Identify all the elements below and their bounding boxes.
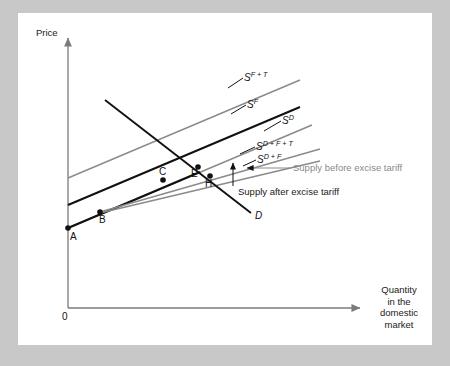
curve-label-sf-sup: F [254, 97, 258, 106]
curve-label-sf: SF [247, 97, 258, 110]
curve-label-sd: SD [282, 113, 294, 126]
supply-curves-group [68, 80, 320, 228]
leader-sft [228, 78, 243, 88]
leader-sdf [243, 160, 256, 166]
x-axis-label-line-2: in the [370, 296, 428, 308]
curve-label-sdf-base: S [257, 154, 264, 165]
curve-label-sf-plus-t-sup: F + T [251, 70, 268, 79]
curve-label-sdft-base: S [256, 141, 263, 152]
point-label-b: B [99, 214, 106, 225]
curve-label-sd-sup: D [289, 113, 294, 122]
curve-label-sf-plus-t: SF + T [244, 70, 268, 83]
y-axis-label: Price [36, 27, 58, 38]
curve-label-sd-base: S [282, 115, 289, 126]
x-axis-label-line-3: domestic [370, 307, 428, 319]
curve-demand [105, 100, 251, 213]
diagram-root: Price 0 Quantity in the domestic market … [0, 0, 450, 366]
curve-label-sf-plus-t-base: S [244, 72, 251, 83]
curve-label-sd-plus-f: SD + F [257, 152, 281, 165]
origin-label: 0 [62, 311, 68, 322]
x-axis-label: Quantity in the domestic market [370, 284, 428, 330]
annotation-supply-before: Supply before excise tariff [293, 162, 402, 173]
point-label-a: A [70, 231, 77, 242]
curve-label-sd-plus-f-plus-t: SD + F + T [256, 139, 293, 152]
demand-curve-group [105, 100, 251, 213]
point-a [65, 225, 71, 231]
curve-label-demand: D [255, 210, 262, 221]
x-axis-label-line-1: Quantity [370, 284, 428, 296]
curve-label-sdft-sup: D + F + T [263, 139, 293, 148]
curve-label-sdf-sup: D + F [264, 152, 282, 161]
curve-sd-bold-segment [68, 172, 200, 228]
point-c [160, 177, 166, 183]
x-axis-label-line-4: market [370, 319, 428, 331]
curve-label-sf-base: S [247, 99, 254, 110]
point-label-h: H [205, 178, 212, 189]
annotation-supply-after: Supply after excise tariff [238, 186, 339, 197]
point-label-c: C [159, 166, 166, 177]
axes-group [68, 38, 360, 308]
leader-sd [264, 121, 281, 131]
point-label-e: E [191, 168, 198, 179]
